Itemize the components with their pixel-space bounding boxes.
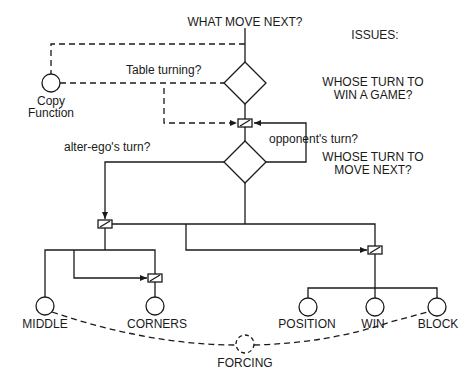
- copy-function-node: [42, 74, 60, 92]
- node-block: [428, 298, 446, 316]
- node-middle: [36, 297, 54, 315]
- diagram-title: WHAT MOVE NEXT?: [188, 16, 303, 29]
- issue-1-line2: WIN A GAME?: [334, 89, 413, 102]
- alter-ego-path: [105, 162, 224, 219]
- table-turning-label: Table turning?: [126, 64, 201, 77]
- node-corners: [146, 297, 164, 315]
- right-control-line: [186, 224, 367, 250]
- label-position: POSITION: [278, 318, 335, 331]
- left-tree-line: [45, 250, 155, 297]
- right-branch-line: [112, 224, 375, 246]
- issues-heading: ISSUES:: [351, 29, 398, 42]
- node-win: [366, 298, 384, 316]
- label-win: WIN: [361, 318, 384, 331]
- flowchart-canvas: [0, 0, 475, 390]
- opponents-turn-label: opponent's turn?: [269, 133, 358, 146]
- label-block: BLOCK: [418, 318, 459, 331]
- alter-egos-turn-label: alter-ego's turn?: [64, 141, 150, 154]
- issue-2-line2: MOVE NEXT?: [334, 164, 411, 177]
- label-middle: MIDDLE: [22, 318, 67, 331]
- node-position: [299, 298, 317, 316]
- label-corners: CORNERS: [127, 318, 187, 331]
- copy-function-label-2: Function: [28, 107, 74, 120]
- decision-diamond-move-turn: [224, 141, 266, 183]
- decision-diamond-win-turn: [224, 62, 266, 104]
- left-control-line: [74, 250, 147, 278]
- label-forcing: FORCING: [217, 357, 272, 370]
- table-turning-return-dashed: [164, 88, 237, 123]
- node-forcing: [236, 335, 254, 353]
